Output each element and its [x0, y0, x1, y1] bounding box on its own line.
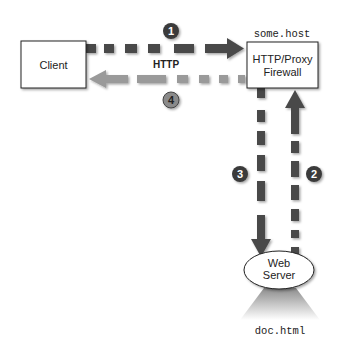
diagram-canvas: Client some.host HTTP/Proxy Firewall HTT… [0, 0, 339, 348]
svg-text:1: 1 [168, 25, 174, 37]
web-server-node: Web Server [244, 251, 314, 289]
step-4-badge: 4 [163, 92, 179, 108]
step-2-arrow [285, 90, 305, 257]
step-2-badge: 2 [306, 166, 322, 182]
step-1-badge: 1 [163, 23, 179, 39]
document-cone [240, 288, 320, 320]
svg-text:3: 3 [237, 168, 243, 180]
proxy-host-label: some.host [254, 28, 311, 40]
step-4-arrow [89, 70, 245, 88]
proxy-label-line1: HTTP/Proxy [253, 53, 313, 65]
protocol-label: HTTP [153, 59, 179, 70]
step-3-arrow [251, 88, 271, 257]
proxy-node: some.host HTTP/Proxy Firewall [247, 28, 318, 88]
svg-text:4: 4 [168, 94, 175, 106]
document-label: doc.html [255, 325, 305, 337]
web-server-label-line1: Web [268, 257, 290, 269]
client-node: Client [21, 41, 86, 88]
client-label: Client [39, 59, 67, 71]
proxy-label-line2: Firewall [264, 66, 302, 78]
step-1-arrow [86, 38, 244, 59]
web-server-label-line2: Server [263, 269, 296, 281]
svg-text:2: 2 [311, 168, 317, 180]
step-3-badge: 3 [232, 166, 248, 182]
